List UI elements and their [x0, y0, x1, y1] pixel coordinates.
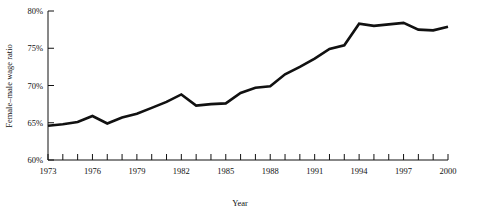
x-axis-tick-label: 1979 [128, 166, 145, 176]
series-path [48, 23, 448, 126]
x-axis-tick-label: 1994 [351, 166, 369, 176]
x-axis-tick-label: 2000 [440, 166, 457, 176]
x-axis-tick-label: 1985 [217, 166, 234, 176]
y-axis-tick-label: 75% [27, 43, 43, 53]
y-axis-tick-label: 60% [27, 155, 43, 165]
data-series [48, 23, 448, 126]
y-axis: 60%65%70%75%80% [27, 6, 54, 165]
x-axis-tick-label: 1988 [262, 166, 279, 176]
x-axis-tick-label: 1997 [395, 166, 412, 176]
y-axis-tick-label: 65% [27, 118, 43, 128]
x-axis-tick-label: 1976 [84, 166, 101, 176]
x-axis-title: Year [232, 198, 248, 208]
y-axis-title: Female–male wage ratio [4, 44, 14, 128]
line-chart: 60%65%70%75%80% 197319761979198219851988… [0, 0, 479, 215]
x-axis-tick-label: 1973 [40, 166, 57, 176]
x-axis-tick-label: 1982 [173, 166, 190, 176]
chart-svg: 60%65%70%75%80% 197319761979198219851988… [0, 0, 479, 215]
x-axis-tick-label: 1991 [306, 166, 323, 176]
y-axis-tick-label: 80% [27, 6, 43, 16]
y-axis-tick-label: 70% [27, 81, 43, 91]
x-axis: 1973197619791982198519881991199419972000 [40, 154, 457, 176]
